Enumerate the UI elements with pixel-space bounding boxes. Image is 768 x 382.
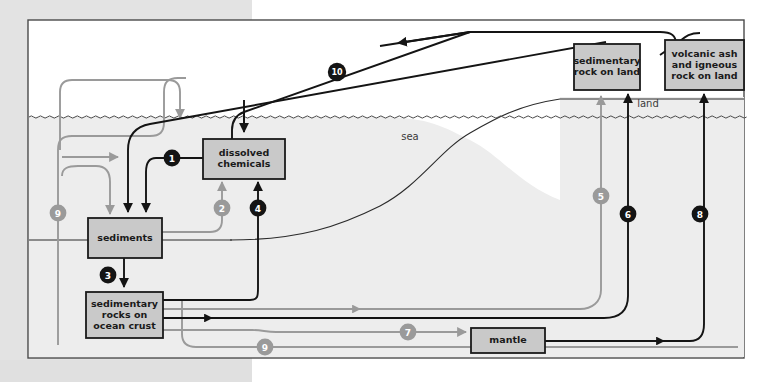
- box-label-volcanic-ash-and-igneous-rock-on-land: volcanic ash: [672, 48, 738, 59]
- flow-marker-marker-10: 10: [328, 63, 346, 81]
- diagram-canvas: dissolvedchemicalssedimentssedimentaryro…: [0, 0, 768, 382]
- box-sediments[interactable]: sediments: [88, 218, 162, 258]
- box-sedimentary-rock-on-land[interactable]: sedimentaryrock on land: [573, 44, 641, 90]
- box-label-sedimentary-rocks-on-ocean-crust: sedimentary: [91, 298, 159, 309]
- flow-marker-marker-9a: 9: [50, 205, 67, 222]
- flow-marker-number-marker-10: 10: [331, 68, 343, 77]
- flow-marker-number-marker-9b: 9: [262, 343, 268, 353]
- flow-marker-marker-4: 4: [250, 200, 267, 217]
- box-label-sedimentary-rocks-on-ocean-crust: rocks on: [102, 309, 148, 320]
- flow-marker-marker-6: 6: [620, 206, 637, 223]
- box-label-volcanic-ash-and-igneous-rock-on-land: rock on land: [671, 70, 737, 81]
- flow-marker-marker-2: 2: [214, 200, 231, 217]
- box-label-dissolved-chemicals: dissolved: [219, 147, 270, 158]
- flow-marker-number-marker-3: 3: [105, 271, 111, 281]
- box-label-sedimentary-rocks-on-ocean-crust: ocean crust: [93, 320, 156, 331]
- flow-marker-marker-8: 8: [692, 206, 709, 223]
- flow-marker-number-marker-5: 5: [598, 192, 604, 202]
- flow-marker-number-marker-2: 2: [219, 204, 225, 214]
- box-mantle[interactable]: mantle: [471, 328, 545, 353]
- box-dissolved-chemicals[interactable]: dissolvedchemicals: [203, 139, 285, 179]
- flow-marker-number-marker-6: 6: [625, 210, 631, 220]
- box-label-sediments: sediments: [97, 232, 153, 243]
- scan-margin-bottom-left: [0, 360, 252, 382]
- flow-marker-marker-1: 1: [164, 150, 181, 167]
- flow-marker-marker-9b: 9: [257, 339, 274, 356]
- box-label-sedimentary-rock-on-land: sedimentary: [573, 55, 641, 66]
- sedimentary-cycle-diagram: dissolvedchemicalssedimentssedimentaryro…: [0, 0, 768, 382]
- flow-marker-number-marker-1: 1: [169, 154, 175, 164]
- box-label-sedimentary-rock-on-land: rock on land: [574, 66, 640, 77]
- environment-label-land: land: [637, 98, 659, 109]
- flow-marker-number-marker-8: 8: [697, 210, 703, 220]
- flow-marker-number-marker-4: 4: [255, 204, 261, 214]
- box-label-dissolved-chemicals: chemicals: [218, 158, 271, 169]
- box-label-volcanic-ash-and-igneous-rock-on-land: and igneous: [672, 59, 738, 70]
- box-label-mantle: mantle: [489, 334, 526, 345]
- flow-marker-marker-5: 5: [593, 188, 610, 205]
- environment-label-sea: sea: [401, 131, 419, 142]
- box-sedimentary-rocks-on-ocean-crust[interactable]: sedimentaryrocks onocean crust: [86, 292, 163, 338]
- flow-marker-number-marker-7: 7: [405, 328, 411, 338]
- flow-marker-marker-7: 7: [400, 324, 417, 341]
- flow-marker-marker-3: 3: [100, 267, 117, 284]
- box-volcanic-ash-and-igneous-rock-on-land[interactable]: volcanic ashand igneousrock on land: [665, 40, 744, 90]
- flow-marker-number-marker-9a: 9: [55, 209, 61, 219]
- scan-margin-bottom-right: [252, 360, 768, 382]
